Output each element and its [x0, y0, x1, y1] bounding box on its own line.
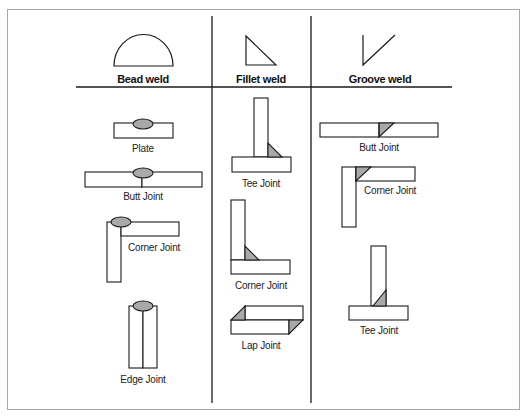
- label-bead-edge-joint: Edge Joint: [120, 374, 165, 385]
- label-groove-butt-joint: Butt Joint: [359, 142, 399, 153]
- label-bead-plate: Plate: [132, 143, 154, 154]
- label-bead-butt-joint: Butt Joint: [123, 191, 163, 202]
- fillet-corner-joint-figure: [231, 200, 290, 274]
- bead-plate-figure: [114, 119, 173, 138]
- label-groove-corner-joint: Corner Joint: [364, 185, 416, 196]
- header-fillet-weld: Fillet weld: [236, 73, 286, 85]
- label-fillet-corner-joint: Corner Joint: [235, 280, 287, 291]
- bead-edge-joint-figure: [129, 301, 157, 368]
- groove-corner-joint-figure: [342, 167, 415, 227]
- fillet-tee-joint-figure: [232, 98, 291, 172]
- groove-tee-joint-figure: [349, 246, 408, 320]
- groove-weld-symbol-icon: [363, 35, 395, 65]
- bead-butt-joint-figure: [85, 168, 202, 187]
- label-bead-corner-joint: Corner Joint: [128, 242, 180, 253]
- fillet-lap-joint-figure: [231, 306, 303, 334]
- label-fillet-lap-joint: Lap Joint: [242, 340, 281, 351]
- header-groove-weld: Groove weld: [349, 73, 412, 85]
- fillet-weld-symbol-icon: [246, 36, 276, 65]
- label-groove-tee-joint: Tee Joint: [360, 325, 398, 336]
- groove-butt-joint-figure: [320, 123, 438, 137]
- weld-diagram: [0, 0, 527, 418]
- label-fillet-tee-joint: Tee Joint: [242, 178, 280, 189]
- header-bead-weld: Bead weld: [117, 73, 169, 85]
- bead-weld-symbol-icon: [114, 34, 173, 66]
